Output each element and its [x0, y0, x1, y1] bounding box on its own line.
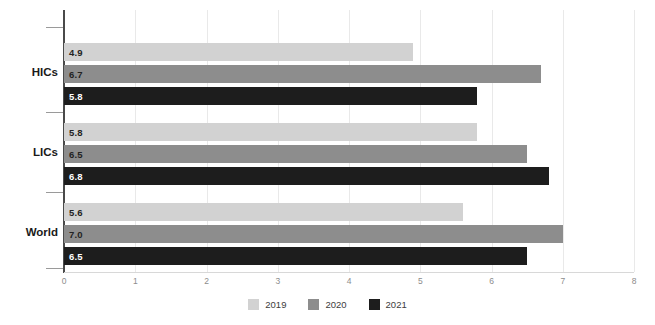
bar-value-lics-2021: 6.8 — [69, 171, 83, 182]
bar-hics-2020: 6.7 — [64, 65, 541, 83]
chart-legend: 2019 2020 2021 — [0, 299, 655, 310]
bar-value-world-2019: 5.6 — [69, 207, 83, 218]
y-axis-tick-bottom — [46, 268, 64, 269]
bar-hics-2019: 4.9 — [64, 43, 413, 61]
x-tick-label-8: 8 — [622, 276, 646, 286]
bar-value-world-2020: 7.0 — [69, 229, 83, 240]
bar-world-2020: 7.0 — [64, 225, 563, 243]
bar-value-lics-2020: 6.5 — [69, 149, 83, 160]
x-tick-label-6: 6 — [480, 276, 504, 286]
plot-area: 4.9 6.7 5.8 5.8 6.5 6.8 5.6 7.0 6.5 — [64, 10, 634, 272]
bar-world-2019: 5.6 — [64, 203, 463, 221]
bar-hics-2021: 5.8 — [64, 87, 477, 105]
x-tick-label-1: 1 — [123, 276, 147, 286]
x-tick-label-3: 3 — [266, 276, 290, 286]
legend-label-2019: 2019 — [265, 299, 286, 310]
x-tick-label-2: 2 — [195, 276, 219, 286]
legend-item-2019[interactable]: 2019 — [248, 299, 286, 310]
bar-lics-2020: 6.5 — [64, 145, 527, 163]
x-tick-label-5: 5 — [408, 276, 432, 286]
y-axis-tick-hics-lics — [46, 112, 64, 113]
y-category-label-world: World — [2, 226, 58, 238]
legend-swatch-2020-icon — [308, 299, 319, 310]
bar-value-hics-2019: 4.9 — [69, 47, 83, 58]
legend-item-2020[interactable]: 2020 — [308, 299, 346, 310]
bar-value-lics-2019: 5.8 — [69, 127, 83, 138]
x-axis-line — [64, 272, 634, 273]
bar-value-hics-2021: 5.8 — [69, 91, 83, 102]
bar-value-world-2021: 6.5 — [69, 251, 83, 262]
legend-swatch-2021-icon — [369, 299, 380, 310]
horizontal-bar-chart: HICs LICs World 4.9 6.7 5.8 5.8 — [0, 0, 655, 325]
x-tick-label-7: 7 — [551, 276, 575, 286]
bar-world-2021: 6.5 — [64, 247, 527, 265]
legend-swatch-2019-icon — [248, 299, 259, 310]
y-axis-tick-lics-world — [46, 192, 64, 193]
y-axis-category-labels: HICs LICs World — [0, 0, 58, 325]
bar-value-hics-2020: 6.7 — [69, 69, 83, 80]
y-category-label-hics: HICs — [2, 66, 58, 78]
gridline-7 — [563, 10, 564, 272]
x-tick-label-0: 0 — [52, 276, 76, 286]
legend-item-2021[interactable]: 2021 — [369, 299, 407, 310]
y-axis-tick-top — [46, 27, 64, 28]
y-category-label-lics: LICs — [2, 146, 58, 158]
bar-lics-2019: 5.8 — [64, 123, 477, 141]
bar-lics-2021: 6.8 — [64, 167, 549, 185]
gridline-8 — [634, 10, 635, 272]
x-tick-label-4: 4 — [337, 276, 361, 286]
legend-label-2021: 2021 — [386, 299, 407, 310]
legend-label-2020: 2020 — [325, 299, 346, 310]
